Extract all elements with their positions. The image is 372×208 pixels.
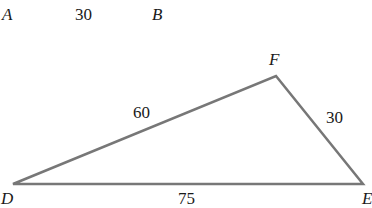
side-df-length: 60 — [133, 104, 150, 121]
vertex-e-label: E — [362, 190, 372, 207]
side-fe-length: 30 — [326, 109, 343, 126]
vertex-d-label: D — [1, 190, 13, 207]
side-de-length: 75 — [178, 190, 195, 207]
vertex-f-label: F — [269, 51, 279, 68]
